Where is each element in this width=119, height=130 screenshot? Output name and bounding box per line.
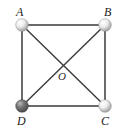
edges-group bbox=[22, 25, 105, 106]
geometry-figure: A B C D O bbox=[0, 0, 119, 130]
vertex-label-B: B bbox=[104, 6, 111, 18]
figure-canvas bbox=[0, 0, 119, 130]
center-point-label-O: O bbox=[58, 71, 66, 82]
vertex-D-node bbox=[16, 100, 29, 113]
vertex-B-node bbox=[99, 19, 112, 32]
vertex-label-C: C bbox=[101, 115, 109, 127]
vertex-A-node bbox=[16, 19, 29, 32]
vertex-label-A: A bbox=[16, 6, 23, 18]
vertex-C-node bbox=[99, 100, 112, 113]
vertex-label-D: D bbox=[17, 115, 26, 127]
